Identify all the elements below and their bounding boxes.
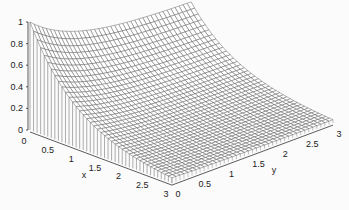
x-tick-label: 1 [69,154,74,164]
surface-plot: 00.20.40.60.8100.511.522.53x00.511.522.5… [0,0,349,210]
x-tick-label: 1.5 [89,163,102,173]
x-tick-label: 2 [116,171,121,181]
y-axis-label: y [272,165,277,175]
y-tick-label: 3 [336,129,341,139]
y-tick-label: 2.5 [306,139,319,149]
z-tick-label: 0 [18,125,23,135]
y-tick-label: 0.5 [198,179,211,189]
x-tick-label: 3 [163,189,168,199]
y-tick-label: 2 [283,149,288,159]
x-tick-label: 0.5 [41,145,54,155]
x-tick-label: 0 [21,136,26,146]
y-tick-label: 1.5 [252,159,265,169]
z-tick-label: 0.8 [10,39,23,49]
z-tick-label: 1 [18,17,23,27]
y-tick-label: 1 [229,169,234,179]
z-tick-label: 0.2 [10,103,23,113]
z-tick-label: 0.6 [10,60,23,70]
surface-chart-svg: 00.20.40.60.8100.511.522.53x00.511.522.5… [0,0,349,210]
x-axis-label: x [82,170,87,180]
z-tick-label: 0.4 [10,82,23,92]
x-tick-label: 2.5 [136,180,149,190]
y-tick-label: 0 [175,189,180,199]
